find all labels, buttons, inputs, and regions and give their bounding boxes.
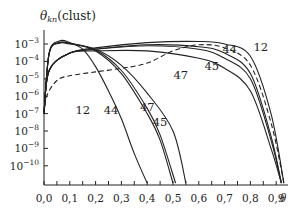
y-tick-label: 10−3 [15, 36, 40, 50]
curve-label: 12 [75, 103, 90, 117]
curve-label: 12 [253, 40, 268, 54]
curve-label: 45 [153, 115, 168, 129]
curve-label: 47 [173, 68, 188, 82]
x-tick-label: 0,3 [113, 192, 130, 204]
y-tick-label: 10−7 [15, 106, 40, 120]
y-ticks: 10−310−410−510−610−710−810−910−10 [10, 36, 48, 172]
y-tick-label: 10−4 [15, 53, 40, 67]
x-tick-label: 0,1 [61, 192, 78, 204]
chart-svg: θkn(clust) 10−310−410−510−610−710−810−91… [0, 0, 291, 212]
curve-label: 44 [104, 103, 119, 117]
x-tick-label: 0,6 [190, 192, 207, 204]
y-tick-label: 10−6 [15, 88, 40, 102]
y-tick-label: 10−10 [10, 158, 39, 172]
y-tick-label: 10−5 [15, 71, 40, 85]
x-tick-label: 0,7 [216, 192, 233, 204]
x-tick-label: 0,0 [36, 192, 53, 204]
x-axis-title: θ [280, 192, 287, 204]
y-tick-label: 10−8 [15, 123, 40, 137]
x-tick-label: 0,2 [87, 192, 104, 204]
curve-label: 45 [204, 59, 219, 73]
y-axis-title: θkn(clust) [40, 9, 96, 24]
x-ticks: 0,00,10,20,30,40,50,60,70,80,9 [36, 181, 285, 204]
y-tick-label: 10−9 [15, 140, 40, 154]
curve-label: 47 [140, 100, 155, 114]
x-tick-label: 0,4 [139, 192, 156, 204]
x-tick-label: 0,5 [165, 192, 182, 204]
x-tick-label: 0,8 [242, 192, 259, 204]
curve-12-decreasing- [44, 40, 147, 183]
curve-label: 44 [222, 42, 237, 56]
